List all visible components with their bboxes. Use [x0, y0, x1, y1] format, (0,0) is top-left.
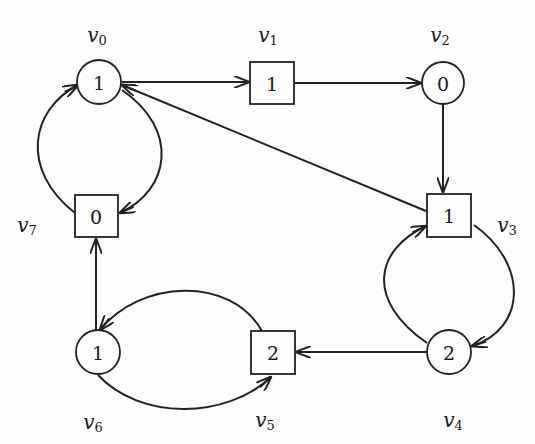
label-v7: v7: [17, 213, 37, 238]
edge-v6-v5: [98, 375, 271, 409]
label-v5: v5: [255, 408, 275, 433]
label-v4: v4: [443, 408, 463, 433]
edge-v0-v7: [120, 90, 162, 213]
label-v2: v2: [430, 23, 450, 48]
node-v3: 1: [427, 194, 471, 237]
node-value: 2: [443, 342, 455, 364]
node-value: 1: [443, 205, 455, 227]
node-v0: 1: [77, 60, 121, 104]
node-value: 1: [92, 342, 104, 364]
node-value: 0: [437, 73, 449, 95]
node-v4: 2: [427, 330, 471, 374]
node-v6: 1: [76, 330, 120, 374]
node-value: 1: [93, 72, 105, 94]
edge-v4-v3: [384, 226, 427, 343]
node-v2: 0: [422, 62, 464, 104]
node-v5: 2: [251, 331, 295, 374]
node-value: 2: [267, 342, 279, 364]
label-v1: v1: [258, 23, 278, 48]
node-value: 1: [266, 73, 278, 95]
graph-diagram: 1 1 0 1 2 2 1 0 v0 v1 v2 v3 v4 v5 v6 v7: [0, 0, 535, 444]
edge-v3-v4: [472, 225, 514, 346]
label-v3: v3: [497, 213, 517, 238]
label-v0: v0: [87, 23, 107, 48]
node-value: 0: [90, 206, 102, 228]
node-v7: 0: [75, 195, 118, 237]
label-v6: v6: [83, 410, 103, 435]
edge-v7-v0: [38, 85, 78, 213]
edge-v5-v6: [100, 291, 262, 331]
node-v1: 1: [250, 62, 294, 104]
